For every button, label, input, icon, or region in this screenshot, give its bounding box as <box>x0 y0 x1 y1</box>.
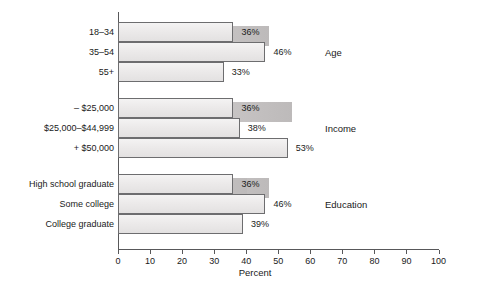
group-title: Age <box>325 47 342 58</box>
x-axis-tick <box>118 250 119 254</box>
x-axis-tick <box>374 250 375 254</box>
x-axis-tick <box>246 250 247 254</box>
plot-area: 010203040506070809010036%18–3446%35–5433… <box>0 0 479 285</box>
bar-value-label: 38% <box>248 123 266 133</box>
bar-chart: 010203040506070809010036%18–3446%35–5433… <box>0 0 479 285</box>
bar <box>118 214 243 234</box>
bar-value-label: 36% <box>241 27 259 37</box>
x-axis-tick-label: 0 <box>115 256 120 266</box>
x-axis-tick <box>150 250 151 254</box>
x-axis-tick <box>278 250 279 254</box>
category-label: High school graduate <box>29 179 114 189</box>
x-axis-tick <box>342 250 343 254</box>
x-axis-tick <box>439 250 440 254</box>
bar-value-label: 36% <box>241 179 259 189</box>
group-title: Income <box>325 123 356 134</box>
x-axis-tick <box>310 250 311 254</box>
category-label: – $25,000 <box>74 103 114 113</box>
category-label: 18–34 <box>89 27 114 37</box>
x-axis-tick <box>406 250 407 254</box>
x-axis-tick-label: 90 <box>401 256 411 266</box>
bar <box>118 174 233 194</box>
x-axis-tick-label: 20 <box>177 256 187 266</box>
x-axis-tick-label: 60 <box>305 256 315 266</box>
bar-value-label: 53% <box>296 143 314 153</box>
bar-value-label: 33% <box>232 67 250 77</box>
x-axis-tick <box>214 250 215 254</box>
category-label: Some college <box>59 199 114 209</box>
bar <box>118 138 288 158</box>
bar <box>118 42 265 62</box>
bar <box>118 194 265 214</box>
x-axis-tick-label: 100 <box>431 256 446 266</box>
x-axis-tick <box>182 250 183 254</box>
bar <box>118 22 233 42</box>
bar-value-label: 39% <box>251 219 269 229</box>
x-axis-tick-label: 80 <box>369 256 379 266</box>
bar-value-label: 46% <box>273 199 291 209</box>
x-axis-tick-label: 10 <box>145 256 155 266</box>
x-axis-tick-label: 50 <box>273 256 283 266</box>
category-label: $25,000–$44,999 <box>44 123 114 133</box>
category-label: 55+ <box>99 67 114 77</box>
bar <box>118 62 224 82</box>
x-axis-title: Percent <box>239 267 272 278</box>
category-label: 35–54 <box>89 47 114 57</box>
bar-value-label: 46% <box>273 47 291 57</box>
category-label: College graduate <box>45 219 114 229</box>
group-title: Education <box>325 199 367 210</box>
bar <box>118 118 240 138</box>
x-axis-tick-label: 40 <box>241 256 251 266</box>
bar-value-label: 36% <box>241 103 259 113</box>
x-axis-tick-label: 70 <box>337 256 347 266</box>
bar <box>118 98 233 118</box>
x-axis-tick-label: 30 <box>209 256 219 266</box>
category-label: + $50,000 <box>74 143 114 153</box>
